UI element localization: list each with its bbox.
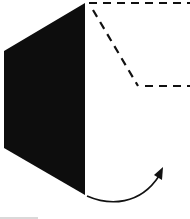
fold-diagram: [0, 0, 190, 219]
solid-panel: [4, 3, 85, 195]
dashed-diagonal-edge: [93, 10, 138, 86]
bottom-edge-mark: [0, 217, 38, 219]
fold-arrow-icon: [87, 176, 159, 202]
